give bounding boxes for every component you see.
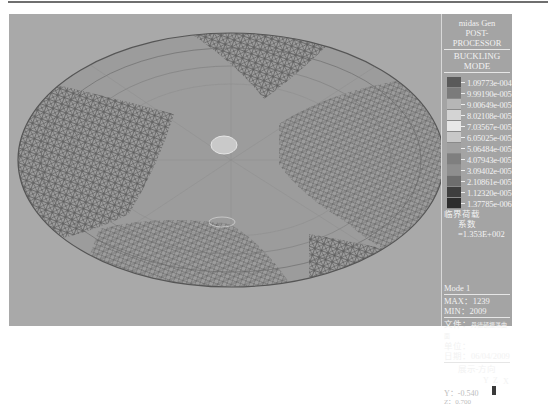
legend-value: 2.10861e-005 xyxy=(467,177,512,187)
date-row: 日期：06/04/2009 xyxy=(442,351,512,361)
axis-x-label: X xyxy=(503,377,509,386)
legend-swatch xyxy=(447,165,461,176)
legend-row: 1.09773e-004 xyxy=(442,77,512,88)
legend-value: 3.09402e-005 xyxy=(467,166,512,176)
module-name: POST-PROCESSOR xyxy=(442,28,512,48)
legend-swatch xyxy=(447,154,461,165)
top-border-line xyxy=(8,1,548,3)
legend-tick xyxy=(461,148,465,149)
legend-swatch xyxy=(447,198,461,209)
legend-row: 9.00649e-005 xyxy=(442,99,512,110)
legend-swatch xyxy=(447,121,461,132)
legend-tick xyxy=(461,170,465,171)
mode-label: Mode 1 xyxy=(442,283,512,293)
axis-triad-icon xyxy=(492,386,496,395)
app-name: midas Gen xyxy=(442,18,512,28)
legend-value: 1.09773e-004 xyxy=(467,78,512,88)
divider xyxy=(444,362,510,363)
file-row: 文件：丹德顿振荡曲面 xyxy=(442,319,512,341)
model-viewport[interactable] xyxy=(9,14,441,326)
unit-label: 单位： xyxy=(442,341,512,351)
legend-swatch xyxy=(447,143,461,154)
view-z-value: Z：0.700 xyxy=(444,396,471,406)
result-type: BUCKLING MODE xyxy=(442,51,512,71)
axis-triad: Y Z X Y：-0.540 Z：0.700 xyxy=(442,374,512,404)
legend-swatch xyxy=(447,99,461,110)
legend-tick xyxy=(461,159,465,160)
legend-swatch xyxy=(447,88,461,99)
legend-swatch xyxy=(447,176,461,187)
legend-row: 1.12320e-005 xyxy=(442,187,512,198)
legend-row: 2.10861e-005 xyxy=(442,176,512,187)
legend-swatch xyxy=(447,77,461,88)
legend-value: 4.07943e-005 xyxy=(467,155,512,165)
divider xyxy=(444,294,510,295)
color-legend: 1.09773e-0049.99190e-0059.00649e-0058.02… xyxy=(442,77,512,209)
legend-row: 7.03567e-005 xyxy=(442,121,512,132)
divider xyxy=(444,49,510,50)
view-direction-label: 展示-方向 xyxy=(442,364,512,374)
legend-row: 4.07943e-005 xyxy=(442,154,512,165)
legend-tick xyxy=(461,192,465,193)
legend-row: 5.06484e-005 xyxy=(442,143,512,154)
legend-value: 7.03567e-005 xyxy=(467,122,512,132)
axis-z-label: Z xyxy=(493,376,498,385)
legend-value: 9.99190e-005 xyxy=(467,89,512,99)
file-label: 文件： xyxy=(444,319,471,329)
legend-row: 6.05025e-005 xyxy=(442,132,512,143)
legend-tick xyxy=(461,93,465,94)
legend-tick xyxy=(461,137,465,138)
legend-value: 8.02108e-005 xyxy=(467,111,512,121)
date-label: 日期： xyxy=(444,351,471,361)
legend-row: 1.37785e-006 xyxy=(442,198,512,209)
divider xyxy=(444,72,510,73)
legend-tick xyxy=(461,126,465,127)
legend-tick xyxy=(461,104,465,105)
legend-value: 6.05025e-005 xyxy=(467,133,512,143)
legend-swatch xyxy=(447,187,461,198)
date-value: 06/04/2009 xyxy=(471,351,510,361)
legend-swatch xyxy=(447,110,461,121)
critical-load-label: 临界荷载 xyxy=(442,209,512,219)
legend-value: 1.37785e-006 xyxy=(467,199,512,209)
legend-panel: midas Gen POST-PROCESSOR BUCKLING MODE 1… xyxy=(441,14,512,326)
legend-row: 3.09402e-005 xyxy=(442,165,512,176)
divider xyxy=(444,317,510,318)
legend-tick xyxy=(461,82,465,83)
legend-tick xyxy=(461,203,465,204)
legend-value: 5.06484e-005 xyxy=(467,144,512,154)
legend-value: 1.12320e-005 xyxy=(467,188,512,198)
legend-row: 9.99190e-005 xyxy=(442,88,512,99)
legend-tick xyxy=(461,181,465,182)
axis-y-label: Y xyxy=(483,376,489,385)
critical-load-factor: 系数=1.353E+002 xyxy=(442,219,512,239)
min-value: MIN：2009 xyxy=(442,306,512,316)
legend-value: 9.00649e-005 xyxy=(467,100,512,110)
legend-swatch xyxy=(447,132,461,143)
dome-mesh-render xyxy=(9,14,441,326)
max-value: MAX：1239 xyxy=(442,296,512,306)
legend-row: 8.02108e-005 xyxy=(442,110,512,121)
legend-tick xyxy=(461,115,465,116)
